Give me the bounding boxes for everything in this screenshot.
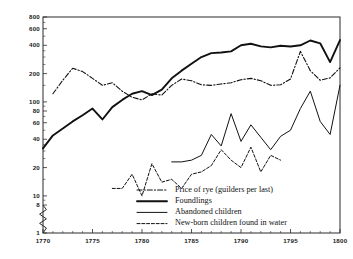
x-axis-tick-label: 1790 <box>234 237 249 244</box>
x-axis-tick-label: 1795 <box>283 237 298 244</box>
y-axis-tick-label: 8 <box>36 201 40 208</box>
legend-label: Price of rye (guilders per last) <box>175 185 273 194</box>
legend-label: Abandoned children <box>175 207 242 216</box>
legend-label: Foundlings <box>175 196 212 205</box>
y-axis-tick-label: 800 <box>29 13 40 20</box>
legend-label: New-born children found in water <box>175 218 287 227</box>
y-axis-tick-label: 1 <box>36 229 40 236</box>
line-chart: 1810204060801002004006008001770177517801… <box>0 0 353 259</box>
y-axis-tick-label: 10 <box>33 192 41 199</box>
y-axis-tick-label: 400 <box>29 41 40 48</box>
x-axis-tick-label: 1800 <box>333 237 348 244</box>
y-axis-tick-label: 100 <box>29 98 40 105</box>
chart-figure: 1810204060801002004006008001770177517801… <box>0 0 353 259</box>
y-axis-tick-label: 200 <box>29 70 40 77</box>
series-line <box>172 85 340 162</box>
y-axis-tick-label: 60 <box>33 119 41 126</box>
x-axis-tick-label: 1770 <box>36 237 51 244</box>
series-line <box>53 51 340 100</box>
y-axis-tick-label: 20 <box>33 164 41 171</box>
y-axis-tick-label: 600 <box>29 25 40 32</box>
x-axis-tick-label: 1785 <box>184 237 199 244</box>
series-line <box>43 40 340 148</box>
x-axis-tick-label: 1780 <box>135 237 150 244</box>
y-axis-tick-label: 40 <box>33 135 41 142</box>
y-axis-tick-label: 80 <box>33 107 41 114</box>
x-axis-tick-label: 1775 <box>85 237 100 244</box>
